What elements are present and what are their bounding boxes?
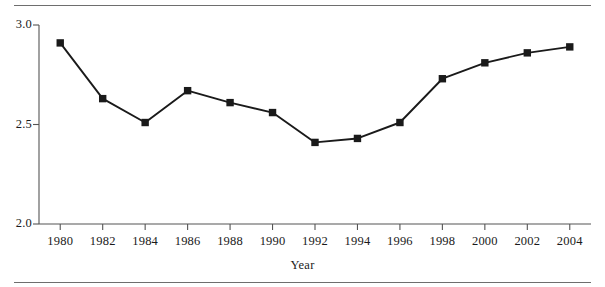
data-point-marker bbox=[396, 119, 403, 126]
x-tick-label: 2002 bbox=[505, 234, 549, 249]
data-point-marker bbox=[184, 87, 191, 94]
data-point-marker bbox=[481, 59, 488, 66]
data-point-marker bbox=[524, 49, 531, 56]
y-tick-label: 2.5 bbox=[2, 117, 32, 132]
data-point-marker bbox=[566, 43, 573, 50]
y-tick-label: 2.0 bbox=[2, 216, 32, 231]
data-series-group bbox=[57, 39, 574, 146]
data-point-marker bbox=[226, 99, 233, 106]
data-point-marker bbox=[439, 75, 446, 82]
y-axis-ticks bbox=[33, 25, 39, 224]
x-tick-label: 1996 bbox=[378, 234, 422, 249]
data-point-marker bbox=[354, 135, 361, 142]
x-tick-label: 1984 bbox=[123, 234, 167, 249]
figure-container: 2.02.53.0 198019821984198619881990199219… bbox=[0, 0, 605, 287]
data-point-marker bbox=[99, 95, 106, 102]
x-tick-label: 2000 bbox=[463, 234, 507, 249]
x-tick-label: 1988 bbox=[208, 234, 252, 249]
data-line-series bbox=[60, 43, 570, 143]
x-tick-label: 1994 bbox=[335, 234, 379, 249]
x-axis-ticks bbox=[60, 224, 570, 230]
x-tick-label: 1980 bbox=[38, 234, 82, 249]
axes-group bbox=[33, 25, 591, 230]
data-point-marker bbox=[57, 39, 64, 46]
x-tick-label: 2004 bbox=[548, 234, 592, 249]
x-tick-label: 1998 bbox=[420, 234, 464, 249]
x-tick-label: 1982 bbox=[81, 234, 125, 249]
x-axis-title: Year bbox=[0, 258, 605, 273]
data-point-marker bbox=[311, 139, 318, 146]
data-point-marker bbox=[269, 109, 276, 116]
x-tick-label: 1990 bbox=[251, 234, 295, 249]
data-point-marker bbox=[141, 119, 148, 126]
y-tick-label: 3.0 bbox=[2, 17, 32, 32]
data-point-markers bbox=[57, 39, 574, 146]
x-tick-label: 1986 bbox=[166, 234, 210, 249]
x-tick-label: 1992 bbox=[293, 234, 337, 249]
